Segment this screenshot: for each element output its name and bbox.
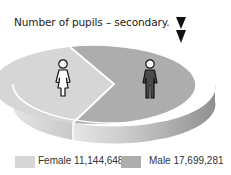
legend-label-female: Female 11,144,648 <box>38 155 123 166</box>
legend-swatch-female <box>15 156 35 168</box>
legend-swatch-male <box>121 156 141 168</box>
pie-chart <box>0 0 231 175</box>
legend-label-male: Male 17,699,281 <box>149 155 224 166</box>
